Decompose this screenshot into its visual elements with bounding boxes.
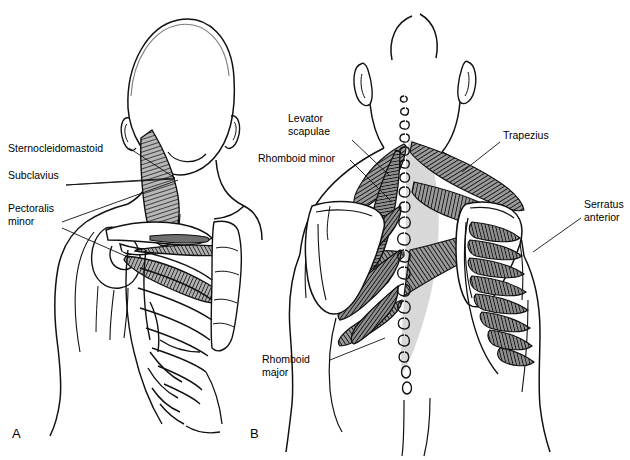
panel-letter-a: A bbox=[12, 426, 21, 441]
label-line: Pectoralis bbox=[8, 202, 54, 214]
label-line: scapulae bbox=[288, 125, 330, 137]
label-text-trapezius: Trapezius bbox=[503, 129, 549, 141]
label-line: Levator bbox=[288, 112, 324, 124]
label-text-serratus-anterior: Serratusanterior bbox=[584, 198, 624, 223]
label-text-subclavius: Subclavius bbox=[8, 169, 59, 181]
anatomy-figure: SternocleidomastoidSubclaviusPectoralism… bbox=[0, 0, 630, 460]
label-line: Rhomboid minor bbox=[258, 152, 336, 164]
label-line: Sternocleidomastoid bbox=[8, 142, 103, 154]
label-text-sternocleidomastoid: Sternocleidomastoid bbox=[8, 142, 103, 154]
label-line: major bbox=[262, 366, 289, 378]
label-line: Trapezius bbox=[503, 129, 549, 141]
label-line: Rhomboid bbox=[262, 353, 310, 365]
panel-letter-b: B bbox=[250, 426, 259, 441]
label-text-rhomboid-minor: Rhomboid minor bbox=[258, 152, 336, 164]
label-line: Serratus bbox=[584, 198, 624, 210]
subclavius-muscle bbox=[150, 235, 209, 243]
label-line: Subclavius bbox=[8, 169, 59, 181]
label-line: minor bbox=[8, 215, 35, 227]
label-line: anterior bbox=[584, 211, 620, 223]
